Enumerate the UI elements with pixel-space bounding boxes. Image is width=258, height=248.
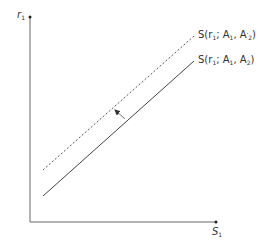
- y-axis-label: r1: [17, 9, 25, 21]
- x-axis-arrow-dot: [215, 221, 218, 224]
- y-axis-arrow-dot: [29, 16, 32, 19]
- shifted-curve-label: S(r1; A1, A′2): [198, 29, 256, 41]
- shift-arrow-icon: [115, 110, 125, 119]
- x-axis-label: S1: [212, 226, 222, 238]
- solid-original-curve: [43, 61, 194, 196]
- original-curve-label: S(r1; A1, A2): [198, 54, 254, 66]
- dashed-shifted-curve: [43, 36, 194, 170]
